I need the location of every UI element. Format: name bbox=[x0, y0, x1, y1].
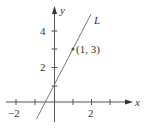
y-tick-label-2: 2 bbox=[40, 61, 46, 73]
x-tick-label-neg2: −2 bbox=[8, 107, 20, 119]
point-label: (1, 3) bbox=[76, 43, 100, 56]
x-axis-arrow-icon bbox=[125, 100, 133, 105]
y-axis-label: y bbox=[59, 4, 65, 16]
line-label: L bbox=[93, 14, 100, 26]
y-tick-label-4: 4 bbox=[40, 25, 46, 37]
point-marker bbox=[72, 48, 75, 51]
x-axis-label: x bbox=[134, 96, 140, 108]
x-tick-label-2: 2 bbox=[88, 107, 94, 119]
y-axis-arrow-icon bbox=[52, 6, 57, 14]
coordinate-plane: y x L (1, 3) 4 2 −2 2 bbox=[0, 0, 151, 129]
